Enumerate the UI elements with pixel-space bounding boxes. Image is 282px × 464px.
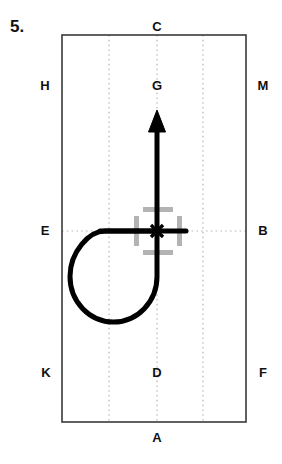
movement-path xyxy=(70,132,186,322)
arrow-head-icon xyxy=(149,110,166,132)
marker-label-C: C xyxy=(147,20,167,33)
marker-label-D: D xyxy=(147,366,167,379)
marker-label-M: M xyxy=(253,79,273,92)
diagram-root: 5. C xyxy=(0,0,282,464)
marker-label-A: A xyxy=(147,431,167,444)
volte-loop-path xyxy=(70,231,157,322)
marker-label-E: E xyxy=(35,224,55,237)
marker-label-B: B xyxy=(253,224,273,237)
marker-label-H: H xyxy=(35,79,55,92)
marker-label-G: G xyxy=(147,79,167,92)
marker-label-F: F xyxy=(253,366,273,379)
marker-label-K: K xyxy=(36,366,56,379)
